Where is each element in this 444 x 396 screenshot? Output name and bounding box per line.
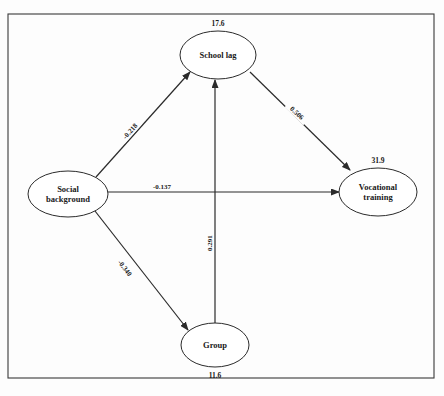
- node-variance-vocational_training: 31.9: [371, 156, 384, 165]
- node-variance-group: 11.6: [209, 371, 222, 380]
- edge-sb_to_sl: [96, 72, 190, 177]
- edge-sb_to_gr: [95, 211, 188, 330]
- path-diagram-svg: -0.218-0.137-0.3400.5060.291 School lag1…: [0, 0, 444, 396]
- edges-layer: -0.218-0.137-0.3400.5060.291: [95, 72, 350, 330]
- node-label-vocational_training: Vocational: [359, 182, 398, 192]
- edge-coefficient-sb_to_vt: -0.137: [153, 183, 172, 191]
- node-label-vocational_training: training: [363, 192, 393, 202]
- node-label-social_background: background: [46, 194, 90, 204]
- node-label-social_background: Social: [57, 184, 79, 194]
- path-diagram-canvas: -0.218-0.137-0.3400.5060.291 School lag1…: [0, 0, 444, 396]
- node-label-group: Group: [203, 340, 227, 350]
- node-variance-school_lag: 17.6: [211, 19, 224, 28]
- edge-coefficient-gr_to_sl: 0.291: [206, 235, 214, 251]
- node-label-school_lag: School lag: [199, 50, 237, 60]
